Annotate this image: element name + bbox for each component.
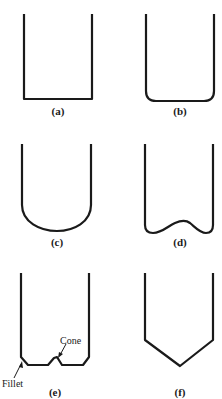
vessel-shape-d (145, 144, 213, 233)
panel-label-c: (c) (51, 236, 63, 248)
panel-label-e: (e) (49, 386, 61, 398)
cone-arrowhead (58, 352, 63, 358)
panel-label-a: (a) (52, 105, 65, 117)
vessel-shape-c (22, 144, 91, 231)
fillet-annotation: Fillet (2, 378, 23, 389)
vessel-shape-b (146, 14, 214, 101)
panel-label-f: (f) (175, 386, 186, 398)
cone-annotation: Cone (60, 335, 81, 346)
fillet-arrowhead (19, 361, 23, 368)
vessel-shape-a (24, 14, 92, 99)
panel-label-d: (d) (173, 236, 186, 248)
vessel-diagram (0, 0, 222, 399)
panel-label-b: (b) (173, 105, 186, 117)
vessel-shape-e (21, 273, 89, 365)
vessel-shape-f (145, 273, 213, 366)
